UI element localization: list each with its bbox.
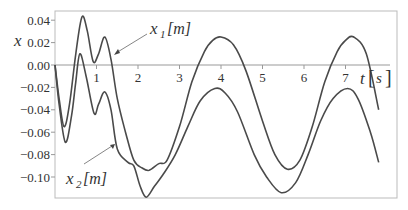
x-axis-var: t [360,69,366,88]
x-axis-ticks: 1234567 [93,65,349,85]
y-axis-ticks: 0.040.020.00−0.02−0.04−0.06−0.08−0.10 [20,13,55,185]
x-axis-unit: s [376,70,382,86]
x-tick-label: 3 [176,70,183,85]
x-tick-label: 4 [218,70,225,85]
arrowhead-icon [114,49,120,55]
annotation-x2-unit: [m] [83,170,107,187]
y-tick-label: −0.08 [20,147,50,162]
y-tick-label: −0.10 [20,170,50,185]
x-axis-title: t [ s ] [360,66,392,88]
y-tick-label: −0.04 [20,102,51,117]
annotation-x1: x 1 [m] [114,19,191,55]
x-tick-label: 2 [135,70,142,85]
y-tick-label: 0.04 [27,13,50,28]
annotation-x1-sub: 1 [160,28,166,40]
x-tick-label: 1 [93,70,100,85]
annotation-x1-unit: [m] [167,20,191,37]
x-axis-bracket-close: ] [385,66,392,88]
y-axis-title: x [13,31,22,50]
annotation-x2-sub: 2 [76,178,82,190]
annotation-x1-arrow [116,34,147,53]
x-tick-label: 5 [259,70,266,85]
y-tick-label: −0.06 [20,125,51,140]
x-axis-bracket-open: [ [368,66,375,88]
annotation-x2-var: x [65,169,74,188]
x-tick-label: 7 [342,70,349,85]
x-tick-label: 6 [301,70,308,85]
annotation-x2: x 2 [m] [65,144,115,190]
line-chart: 0.040.020.00−0.02−0.04−0.06−0.08−0.10 12… [0,0,408,210]
annotation-x1-var: x [149,19,158,38]
annotation-x2-arrow [84,146,112,164]
y-tick-label: −0.02 [20,80,50,95]
y-tick-label: 0.00 [27,58,50,73]
y-tick-label: 0.02 [27,35,50,50]
